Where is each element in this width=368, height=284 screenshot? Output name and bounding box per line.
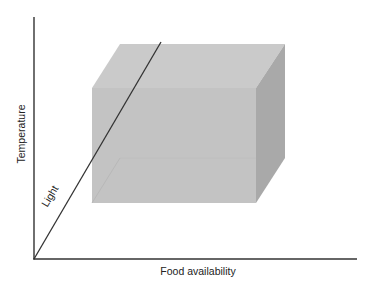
z-axis-label: Light	[39, 183, 61, 209]
y-axis-label: Temperature	[15, 104, 27, 163]
box-front-face	[92, 88, 256, 203]
x-axis-label: Food availability	[160, 265, 236, 277]
box-top-face	[92, 44, 285, 88]
niche-diagram: Temperature Food availability Light	[0, 0, 368, 284]
